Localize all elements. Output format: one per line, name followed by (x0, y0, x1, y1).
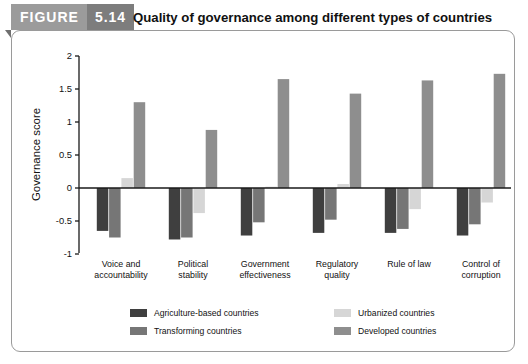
figure-header: FIGURE 5.14 Quality of governance among … (0, 4, 528, 30)
figure-tab: FIGURE 5.14 (11, 4, 134, 30)
figure-number: 5.14 (87, 4, 134, 30)
legend-item-agriculture-based: Agriculture-based countries (130, 308, 259, 318)
legend-label-transforming: Transforming countries (154, 326, 242, 336)
legend-label-agriculture-based: Agriculture-based countries (154, 308, 259, 318)
legend-label-urbanized: Urbanized countries (358, 308, 434, 318)
legend-item-developed: Developed countries (334, 326, 436, 336)
legend-swatch-urbanized (334, 309, 351, 317)
legend-item-transforming: Transforming countries (130, 326, 242, 336)
legend-swatch-transforming (130, 327, 147, 335)
chart-panel (11, 30, 515, 352)
legend-item-urbanized: Urbanized countries (334, 308, 434, 318)
figure-label: FIGURE (11, 4, 87, 30)
legend-swatch-developed (334, 327, 351, 335)
legend-swatch-agriculture-based (130, 309, 147, 317)
chart-legend: Agriculture-based countries Transforming… (130, 306, 470, 350)
page-title: Quality of governance among different ty… (133, 4, 492, 30)
legend-label-developed: Developed countries (358, 326, 436, 336)
